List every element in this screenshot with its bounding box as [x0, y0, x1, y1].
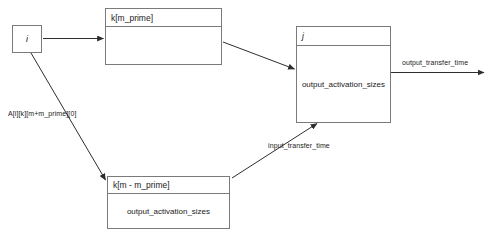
edge-label-output-transfer-time: output_transfer_time	[402, 59, 468, 66]
edge-label-input-transfer-time: input_transfer_time	[268, 142, 330, 149]
node-j-title: j	[297, 27, 390, 46]
node-k-m-minus-m-prime[interactable]: k[m - m_prime] output_activation_sizes	[107, 176, 230, 229]
node-j-body: output_activation_sizes	[297, 46, 390, 123]
node-j[interactable]: j output_activation_sizes	[296, 26, 391, 123]
node-i-label: i	[26, 34, 28, 44]
node-k-m-minus-m-prime-title: k[m - m_prime]	[108, 177, 229, 194]
connector-k-m-prime-to-j	[223, 42, 295, 69]
node-k-m-prime[interactable]: k[m_prime]	[105, 8, 222, 65]
diagram-connectors	[0, 0, 490, 240]
node-k-m-prime-title: k[m_prime]	[106, 9, 221, 27]
edge-label-a-index: A[i][k][m+m_prime][0]	[8, 110, 76, 117]
connector-k-m-minus-to-j	[232, 124, 317, 179]
node-k-m-minus-m-prime-body: output_activation_sizes	[108, 194, 229, 229]
diagram-canvas: i k[m_prime] k[m - m_prime] output_activ…	[0, 0, 490, 240]
node-k-m-prime-body	[106, 27, 221, 65]
node-i[interactable]: i	[12, 25, 42, 53]
